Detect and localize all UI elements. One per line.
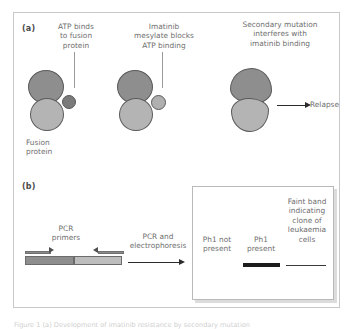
reverse-primer — [92, 246, 126, 255]
fusion-gene-dna — [25, 256, 122, 265]
gel-band-ph1-present — [243, 263, 280, 267]
dna-segment-bcr — [25, 256, 74, 265]
callout-imatinib-blocks: Imatinib mesylate blocks ATP binding — [126, 22, 202, 50]
imatinib-molecule — [151, 95, 166, 110]
callout-secondary-mutation: Secondary mutation interferes with imati… — [228, 20, 332, 48]
relapse-label: Relapse — [310, 100, 352, 109]
callout-atp-binds: ATP binds to fusion protein — [43, 22, 109, 50]
panel-b-label: (b) — [22, 182, 36, 191]
forward-primer-bar — [25, 251, 51, 254]
protein-lobe-bottom — [30, 98, 64, 131]
protein-lobe-bottom-mutated — [231, 98, 269, 132]
figure-bottom-caption: Figure 1 (a) Development of imatinib res… — [14, 322, 339, 329]
pcr-primers-label: PCR primers — [40, 224, 92, 243]
mutated-fusion-protein — [228, 68, 286, 134]
gel-lane-label-3: Faint band indicating clone of leukaemia… — [282, 197, 332, 244]
gel-lane-label-2: Ph1 present — [241, 235, 281, 254]
gel-band-faint-clone — [286, 265, 326, 266]
reverse-primer-bar — [98, 251, 124, 254]
forward-primer-head — [49, 247, 54, 253]
fusion-protein-label: Fusion protein — [26, 138, 76, 157]
reverse-primer-head — [93, 247, 98, 253]
pcr-electrophoresis-label: PCR and electrophoresis — [128, 232, 188, 251]
atp-molecule — [62, 95, 76, 109]
panel-a-label: (a) — [22, 24, 35, 33]
gel-result-box: Ph1 not present Ph1 present Faint band i… — [192, 186, 334, 300]
relapse-arrow-line — [277, 105, 306, 106]
gel-lane-label-1: Ph1 not present — [195, 235, 239, 254]
protein-lobe-bottom — [119, 98, 153, 131]
figure-container: (a) ATP binds to fusion protein Imatinib… — [0, 0, 353, 329]
process-arrow-head — [179, 259, 185, 265]
forward-primer — [25, 246, 59, 255]
process-arrow-line — [128, 262, 180, 263]
dna-segment-abl — [74, 256, 122, 265]
fusion-protein-with-atp — [26, 70, 82, 132]
fusion-protein-with-imatinib — [115, 70, 171, 132]
